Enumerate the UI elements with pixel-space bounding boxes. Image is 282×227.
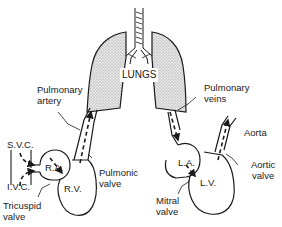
pulmonary-veins-label-line1: Pulmonary [204, 82, 249, 93]
circulation-diagram [0, 0, 282, 227]
pulmonary-artery-label-line1: Pulmonary [37, 84, 82, 95]
tricuspid-valve-leader [38, 184, 50, 197]
pulmonic-valve-label-line2: valve [99, 178, 121, 189]
aortic-valve-leader [226, 154, 238, 165]
svc-label: S.V.C. [7, 139, 34, 150]
mitral-valve-label-line1: Mitral [156, 195, 179, 206]
pulmonary-veins-label-line2: veins [204, 93, 226, 104]
aorta-label: Aorta [244, 127, 267, 138]
rv-label: R.V. [64, 183, 82, 194]
pulmonary-artery-label-line2: artery [37, 95, 61, 106]
lungs-label: LUNGS [120, 68, 158, 82]
vena-cava-vessels [11, 150, 40, 185]
mitral-valve-label-line2: valve [156, 206, 178, 217]
lv-label: L.V. [200, 177, 216, 188]
ra-label: R.A. [45, 162, 63, 173]
pulmonary-artery-leader [58, 112, 80, 130]
trachea [122, 8, 156, 64]
ivc-label: I.V.C. [7, 181, 30, 192]
tricuspid-valve-label-line2: valve [3, 211, 25, 222]
aortic-valve-label-line2: valve [252, 170, 274, 181]
svc-flow-arrow [20, 153, 34, 165]
la-label: L.A. [178, 157, 195, 168]
pulmonic-valve-label-line1: Pulmonic [99, 167, 138, 178]
aortic-valve-label-line1: Aortic [251, 159, 275, 170]
tricuspid-valve-label-line1: Tricuspid [3, 200, 41, 211]
